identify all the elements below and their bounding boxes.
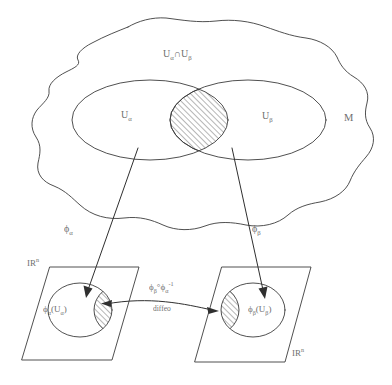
right-space-sup-n: n bbox=[301, 347, 304, 353]
phi-alpha-label: ϕα bbox=[64, 224, 73, 234]
right-image-open: (U bbox=[256, 304, 266, 314]
left-image-close: ) bbox=[64, 304, 67, 314]
right-chart-image-label: ϕβ(Uβ) bbox=[248, 305, 271, 314]
transition-map-label: ϕβ°ϕα-1 bbox=[149, 283, 174, 292]
right-hatched-lens-group bbox=[175, 283, 239, 337]
intersection-sub-beta: β bbox=[188, 54, 191, 61]
manifold-chart-diagram: Uα∩Uβ Uα Uβ M ϕα ϕβ IRn IRn ϕα(Uα) ϕβ(Uβ… bbox=[0, 0, 392, 385]
u-alpha-sub: α bbox=[128, 115, 132, 122]
u-alpha-cap-u-beta-label: Uα∩Uβ bbox=[163, 49, 192, 59]
u-alpha-label: Uα bbox=[121, 110, 132, 120]
left-space-ir: IR bbox=[27, 258, 36, 268]
transition-arrow-head bbox=[207, 307, 219, 314]
phi-alpha-arrow-head bbox=[84, 286, 93, 299]
phi-alpha-sub: α bbox=[69, 229, 73, 236]
overlap-hatch-fill bbox=[170, 80, 326, 160]
overlap-hatched-region bbox=[170, 80, 326, 160]
phi-beta-sub: β bbox=[257, 229, 260, 236]
u-beta-sub: β bbox=[269, 116, 272, 123]
phi-beta-arrow-line bbox=[232, 148, 263, 290]
right-image-close: ) bbox=[268, 304, 271, 314]
phi-beta-label: ϕβ bbox=[252, 224, 261, 234]
transition-sup-inverse: -1 bbox=[168, 281, 173, 287]
right-space-ir: IR bbox=[292, 348, 301, 358]
diagram-canvas bbox=[0, 0, 392, 385]
phi-alpha-arrow bbox=[84, 148, 139, 298]
transition-diffeo-caption: diffeo bbox=[153, 305, 171, 313]
left-plane-parallelogram bbox=[22, 267, 139, 360]
left-chart-image-label: ϕα(Uα) bbox=[43, 305, 67, 314]
right-euclidean-plane bbox=[175, 267, 311, 362]
phi-alpha-arrow-line bbox=[88, 148, 138, 290]
right-plane-space-label: IRn bbox=[292, 349, 304, 358]
u-beta-label: Uβ bbox=[262, 111, 273, 121]
left-space-sup-n: n bbox=[36, 257, 39, 263]
manifold-m-label: M bbox=[344, 113, 353, 124]
right-hatch-fill bbox=[175, 283, 239, 337]
phi-beta-arrow-head bbox=[259, 287, 268, 300]
intersection-symbol: ∩ bbox=[174, 48, 181, 59]
transition-sub-alpha: α bbox=[165, 288, 168, 294]
left-plane-space-label: IRn bbox=[27, 259, 39, 268]
